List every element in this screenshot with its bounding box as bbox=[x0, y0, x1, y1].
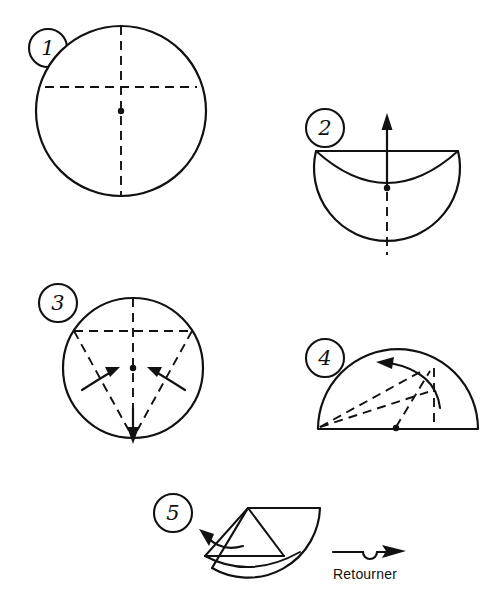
step-2-group: 2 bbox=[306, 109, 460, 255]
step-4-badge: 4 bbox=[306, 339, 344, 377]
step-2-badge: 2 bbox=[306, 109, 344, 147]
step-1-center-dot bbox=[118, 108, 124, 114]
step-number-label: 5 bbox=[166, 501, 179, 525]
step-3-group: 3 bbox=[39, 284, 203, 444]
step-3-center-dot bbox=[130, 365, 136, 371]
turn-over-icon-loop bbox=[363, 552, 377, 559]
step-2-unfold-arrow-head bbox=[382, 113, 393, 130]
step-4-center-dot bbox=[393, 425, 399, 431]
retourner-caption: Retourner bbox=[333, 566, 397, 582]
origami-diagram-canvas: 1 2 bbox=[0, 0, 496, 606]
origami-diagram-page: 1 2 bbox=[0, 0, 496, 606]
step-5-group: 5 bbox=[154, 494, 320, 578]
step-3-badge: 3 bbox=[39, 284, 77, 322]
step-5-body-outline bbox=[212, 508, 320, 578]
turn-over-symbol-group bbox=[333, 545, 406, 559]
step-number-label: 3 bbox=[51, 291, 64, 315]
step-5-fold-arrow-head bbox=[199, 529, 214, 546]
step-1-group: 1 bbox=[29, 26, 206, 196]
step-number-label: 2 bbox=[317, 116, 331, 140]
step-5-badge: 5 bbox=[154, 494, 192, 532]
step-number-label: 4 bbox=[317, 346, 331, 370]
step-2-center-dot bbox=[384, 185, 390, 191]
step-number-label: 1 bbox=[41, 36, 54, 60]
step-4-group: 4 bbox=[306, 339, 478, 431]
